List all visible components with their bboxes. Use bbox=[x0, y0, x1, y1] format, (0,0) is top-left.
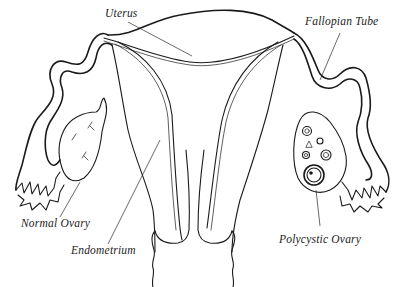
fallopian-tube-right bbox=[294, 33, 389, 212]
polycystic-ovary-leader-line bbox=[316, 190, 320, 226]
endometrium-label: Endometrium bbox=[71, 245, 136, 257]
normal-ovary-label: Normal Ovary bbox=[21, 218, 90, 230]
uterus-label: Uterus bbox=[105, 8, 138, 20]
normal-ovary bbox=[59, 98, 106, 181]
fallopian-tube-leader-line bbox=[320, 33, 340, 80]
uterus-leader-line bbox=[128, 22, 192, 56]
polycystic-ovary bbox=[294, 112, 347, 192]
fallopian-tube-left bbox=[16, 34, 112, 210]
fallopian-tube-label: Fallopian Tube bbox=[305, 16, 378, 28]
polycystic-ovary-label: Polycystic Ovary bbox=[279, 234, 361, 246]
endometrium-leader-line bbox=[108, 140, 160, 244]
